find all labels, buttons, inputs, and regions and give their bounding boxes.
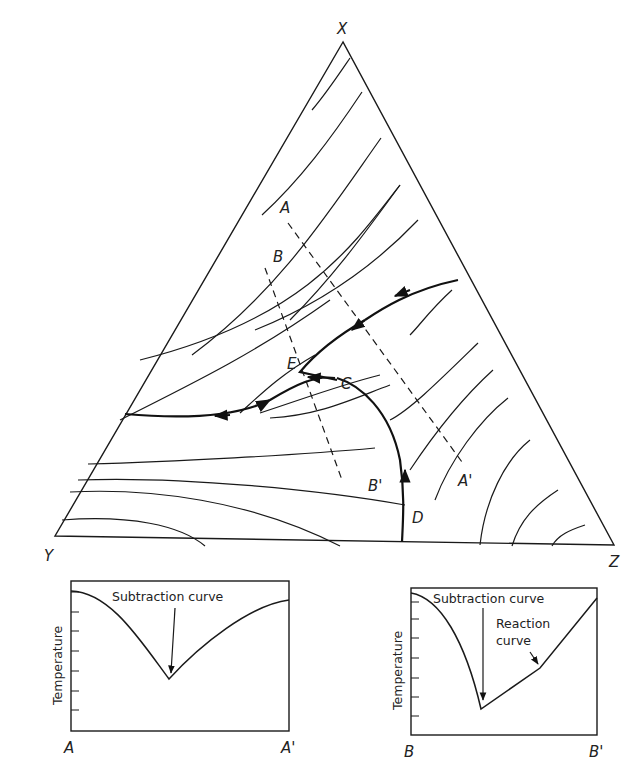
plot-b-xstart: B (404, 743, 414, 761)
plot-a-arrow (171, 608, 175, 673)
section-label-b-prime: B' (368, 477, 382, 495)
vertex-label-z: Z (608, 553, 620, 571)
isotherms (62, 58, 585, 546)
vertex-label-x: X (336, 20, 348, 38)
plot-b-curve (411, 593, 597, 709)
plot-a-xstart: A (63, 739, 74, 757)
plot-a-ticks (71, 592, 79, 710)
section-lines (265, 223, 462, 480)
section-label-b: B (273, 248, 283, 266)
plot-b-annotation-reaction-2: curve (496, 633, 531, 648)
section-label-a-prime: A' (457, 472, 472, 490)
plot-b-xend: B' (589, 743, 603, 761)
section-line-a (288, 223, 462, 462)
ternary-triangle (55, 42, 614, 545)
section-label-a: A (279, 199, 290, 217)
vertex-label-y: Y (44, 547, 55, 565)
point-label-c: C (341, 375, 352, 393)
plot-b-ticks (411, 602, 419, 716)
plot-a-annotation: Subtraction curve (112, 589, 224, 604)
plot-b-annotation-subtraction: Subtraction curve (433, 591, 545, 606)
plot-b-reaction-arrow (530, 652, 538, 664)
plot-b-annotation-reaction-1: Reaction (496, 616, 550, 631)
plot-a-xend: A' (280, 739, 295, 757)
plot-a: Subtraction curve Temperature A A' (50, 581, 295, 757)
plot-a-curve (71, 591, 289, 679)
ternary-diagram-figure: X Y Z A A' B B' E C D Subtraction curve … (0, 0, 634, 779)
section-line-b (265, 268, 342, 480)
plot-b: Subtraction curve Reaction curve Tempera… (390, 588, 603, 761)
point-label-e: E (287, 355, 297, 373)
plot-b-ylabel: Temperature (390, 631, 405, 711)
point-label-d: D (412, 509, 424, 527)
plot-a-ylabel: Temperature (50, 626, 65, 706)
